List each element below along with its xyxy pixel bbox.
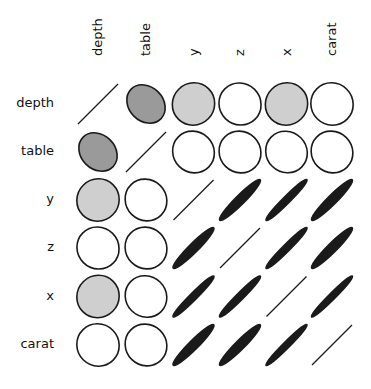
cell-x-y [171, 274, 217, 320]
column-label-y: y [186, 48, 201, 56]
correlation-ellipse [164, 123, 223, 182]
column-label-carat: carat [324, 22, 339, 56]
correlation-ellipse [68, 315, 128, 375]
correlation-ellipse [117, 267, 176, 326]
cell-carat-depth [68, 315, 128, 375]
cell-depth-table [119, 77, 173, 131]
cell-x-depth [68, 267, 128, 327]
correlation-ellipse [309, 177, 356, 224]
cell-y-z [217, 177, 264, 224]
cell-z-z [220, 228, 260, 268]
cell-table-table [126, 132, 166, 172]
cell-z-depth [68, 218, 128, 278]
cell-x-x [267, 277, 307, 317]
cell-depth-x [257, 74, 317, 134]
correlation-ellipse [116, 218, 175, 277]
column-label-x: x [279, 48, 294, 56]
correlation-ellipse [217, 322, 264, 369]
correlation-ellipse [171, 274, 217, 320]
correlation-ellipse [217, 274, 263, 320]
cell-carat-x [264, 322, 309, 367]
correlation-ellipse [264, 322, 309, 367]
column-label-table: table [138, 23, 153, 56]
correlation-ellipse [117, 316, 176, 375]
cell-table-depth [71, 125, 125, 179]
correlation-ellipse [210, 74, 270, 134]
row-label-table: table [0, 143, 54, 158]
correlation-ellipse [264, 225, 310, 271]
correlation-ellipse [117, 171, 176, 230]
diagonal-line [267, 277, 307, 317]
correlation-ellipse [257, 74, 317, 134]
correlation-ellipse [170, 322, 217, 369]
cell-y-y [174, 180, 214, 220]
cell-depth-depth [78, 84, 118, 124]
row-label-depth: depth [0, 95, 54, 110]
cell-z-x [264, 225, 310, 271]
cell-table-y [164, 123, 223, 182]
cell-y-x [264, 177, 310, 223]
cell-carat-y [170, 322, 217, 369]
cell-carat-table [117, 316, 176, 375]
correlation-ellipse [164, 74, 224, 134]
correlation-ellipse [68, 218, 128, 278]
cell-table-x [257, 123, 316, 182]
row-label-carat: carat [0, 336, 54, 351]
cell-carat-z [217, 322, 264, 369]
cell-depth-y [164, 74, 224, 134]
cell-carat-carat [312, 325, 352, 365]
correlation-ellipse [309, 225, 356, 272]
cell-table-carat [303, 123, 362, 182]
column-label-depth: depth [90, 18, 105, 56]
cell-depth-carat [302, 74, 362, 134]
correlation-ellipse [309, 274, 354, 319]
row-label-x: x [0, 288, 54, 303]
correlation-ellipse [119, 77, 173, 131]
correlation-ellipse [71, 125, 125, 179]
column-label-z: z [232, 49, 247, 56]
cell-table-z [210, 122, 269, 181]
diagonal-line [78, 84, 118, 124]
correlation-matrix-chart [0, 0, 371, 389]
cell-z-table [116, 218, 175, 277]
correlation-ellipse [217, 177, 264, 224]
cell-y-table [117, 171, 176, 230]
cell-z-y [170, 225, 217, 272]
correlation-ellipse [68, 170, 128, 230]
diagonal-line [312, 325, 352, 365]
correlation-ellipse [210, 122, 269, 181]
row-label-y: y [0, 191, 54, 206]
correlation-ellipse [302, 74, 362, 134]
row-label-z: z [0, 239, 54, 254]
diagonal-line [220, 228, 260, 268]
diagonal-line [126, 132, 166, 172]
cell-y-depth [68, 170, 128, 230]
cell-x-table [117, 267, 176, 326]
cell-z-carat [309, 225, 356, 272]
cell-depth-z [210, 74, 270, 134]
diagonal-line [174, 180, 214, 220]
correlation-ellipse [170, 225, 217, 272]
cell-y-carat [309, 177, 356, 224]
correlation-ellipse [264, 177, 310, 223]
cell-x-carat [309, 274, 354, 319]
correlation-ellipse [303, 123, 362, 182]
correlation-ellipse [68, 267, 128, 327]
correlation-ellipse [257, 123, 316, 182]
cell-x-z [217, 274, 263, 320]
